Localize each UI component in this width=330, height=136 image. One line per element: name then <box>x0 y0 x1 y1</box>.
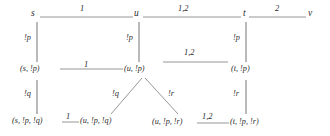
edge-label-t-down: !p <box>233 34 240 42</box>
diagram-edges <box>0 0 330 136</box>
edge-label-t-v: 2 <box>275 5 279 13</box>
node-v[interactable]: v <box>308 9 312 19</box>
edge-label-tp-down: !r <box>233 90 239 98</box>
node-u-p-r[interactable]: (u, !p, !r) <box>152 118 182 126</box>
node-u-p-q[interactable]: (u, !p, !q) <box>80 117 111 125</box>
edge-label-u-down: !p <box>126 34 133 42</box>
node-s-p-q[interactable]: (s, !p, !q) <box>12 117 42 125</box>
edge-label-s-u: 1 <box>80 5 84 13</box>
edge-label-u-t: 1,2 <box>178 5 188 13</box>
node-s[interactable]: s <box>31 9 35 19</box>
edge-label-up-left: !q <box>112 90 119 98</box>
edge-label-up-tp: 1,2 <box>184 49 194 57</box>
edge-label-s-down: !p <box>24 34 31 42</box>
edge-label-upr-tpr: 1,2 <box>202 113 212 121</box>
node-s-p[interactable]: (s, !p) <box>20 65 40 73</box>
node-t-p-r[interactable]: (t, !p, !r) <box>230 118 259 126</box>
edge-label-sp-up: 1 <box>84 61 88 69</box>
node-u[interactable]: u <box>134 9 139 19</box>
edge-label-spq-upq: 1 <box>66 113 70 121</box>
edge-label-sp-down: !q <box>24 90 31 98</box>
edge-label-up-right: !r <box>168 90 174 98</box>
node-t[interactable]: t <box>243 9 246 19</box>
node-t-p[interactable]: (t, !p) <box>231 65 250 73</box>
node-u-p[interactable]: (u, !p) <box>124 65 144 73</box>
diagram-canvas: s u t v 1 1,2 2 !p !p !p (s, !p) (u, !p)… <box>0 0 330 136</box>
